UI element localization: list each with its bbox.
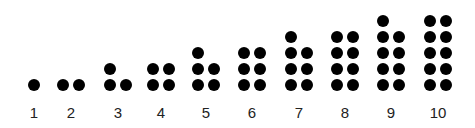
dot [147,63,159,75]
dot [285,31,297,43]
dot [285,47,297,59]
dot [377,63,389,75]
dot [192,47,204,59]
number-label: 3 [114,104,122,121]
dot [301,63,313,75]
dot [440,47,452,59]
dot [163,79,175,91]
dot [238,79,250,91]
number-label: 7 [295,104,303,121]
number-label: 2 [67,104,75,121]
dot [331,63,343,75]
dot [301,79,313,91]
dot [424,47,436,59]
number-label: 10 [430,104,447,121]
number-label: 4 [157,104,165,121]
dot [238,47,250,59]
dot [208,79,220,91]
dot [192,79,204,91]
dot-number-diagram: 12345678910 [0,0,475,128]
dot [331,31,343,43]
dot [440,31,452,43]
number-label: 9 [387,104,395,121]
number-label: 5 [202,104,210,121]
number-label: 1 [30,104,38,121]
dot [424,31,436,43]
number-label: 8 [341,104,349,121]
dot [331,47,343,59]
dot [104,79,116,91]
dot [347,47,359,59]
dot [238,63,250,75]
dot [347,31,359,43]
dot [440,63,452,75]
dot [254,63,266,75]
dot [254,47,266,59]
dot [424,63,436,75]
dot [254,79,266,91]
dot [147,79,159,91]
dot [57,79,69,91]
dot [393,79,405,91]
dot [208,63,220,75]
dot [120,79,132,91]
dot [377,47,389,59]
dot [301,47,313,59]
dot [377,79,389,91]
dot [73,79,85,91]
dot [104,63,116,75]
dot [331,79,343,91]
dot [377,15,389,27]
dot [393,63,405,75]
dot [393,31,405,43]
dot [377,31,389,43]
dot [440,15,452,27]
number-label: 6 [248,104,256,121]
dot [393,47,405,59]
dot [424,15,436,27]
dot [424,79,436,91]
dot [192,63,204,75]
dot [347,79,359,91]
dot [440,79,452,91]
dot [285,79,297,91]
dot [347,63,359,75]
dot [285,63,297,75]
dot [28,79,40,91]
dot [163,63,175,75]
